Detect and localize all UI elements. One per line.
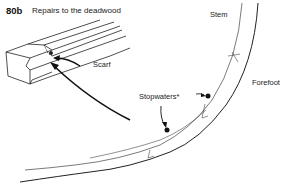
timber-block-illustration <box>6 20 130 84</box>
diagram-canvas: 80b Repairs to the deadwood <box>0 0 287 185</box>
label-stem: Stem <box>210 10 228 19</box>
stopwaters-arrow-block <box>54 66 130 120</box>
stopwater-dot-upper <box>206 94 211 99</box>
label-scarf: Scarf <box>93 60 111 69</box>
label-stopwaters: Stopwaters* <box>139 92 179 101</box>
label-forefoot: Forefoot <box>252 78 280 87</box>
stopwater-dot-lower <box>165 128 170 133</box>
